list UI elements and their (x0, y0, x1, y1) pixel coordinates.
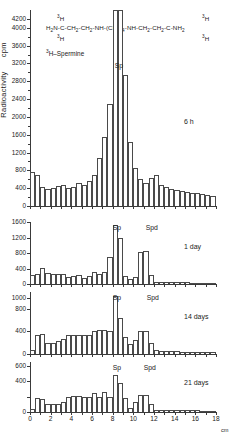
y-axis-units-text: cpm (0, 42, 8, 57)
y-tick-label: 1600 (12, 219, 26, 225)
x-tick (30, 284, 31, 287)
x-tick (185, 354, 186, 357)
x-tick (123, 412, 124, 415)
x-tick (40, 206, 41, 209)
x-tick (51, 354, 52, 357)
time-point-label: 21 days (184, 379, 209, 386)
y-tick-label: 800 (15, 306, 26, 312)
x-tick (113, 354, 114, 357)
x-tick (195, 206, 196, 209)
x-tick (144, 206, 145, 209)
time-point-label: 6 h (184, 118, 194, 125)
x-tick (30, 354, 31, 357)
x-axis-units-label: cm (221, 427, 228, 433)
bar-series (30, 292, 216, 354)
x-tick (40, 284, 41, 287)
x-tick (102, 354, 103, 357)
x-tick (164, 412, 165, 415)
y-tick-label: 800 (15, 167, 26, 173)
x-tick-label: 10 (130, 416, 137, 423)
x-tick (82, 354, 83, 357)
x-tick (216, 206, 217, 209)
x-tick (144, 412, 145, 415)
y-tick-label: 400 (15, 328, 26, 334)
x-tick (61, 354, 62, 357)
bar (210, 196, 215, 206)
x-tick (206, 284, 207, 287)
x-tick (102, 206, 103, 209)
peak-label-sp: Sp (113, 294, 121, 301)
x-tick (61, 206, 62, 209)
y-tick-label: 400 (15, 378, 26, 384)
peak-label-spd: Spd (144, 364, 156, 371)
y-tick-label: 2400 (12, 96, 26, 102)
figure-root: Radioactivitycpm H2N-C-CH2-CH2-NH-(CH2)4… (0, 0, 236, 436)
y-tick-label: 0 (22, 203, 26, 209)
x-tick (195, 284, 196, 287)
x-tick (133, 206, 134, 209)
x-tick-label: 16 (192, 416, 199, 423)
peak-label-sp: Sp (113, 364, 121, 371)
bar (210, 352, 215, 354)
y-tick-label: 400 (15, 185, 26, 191)
y-tick-label: 1600 (12, 132, 26, 138)
x-tick (92, 354, 93, 357)
x-tick (164, 206, 165, 209)
x-tick (113, 206, 114, 209)
y-tick-label: 800 (15, 250, 26, 256)
x-tick (123, 284, 124, 287)
x-tick (92, 284, 93, 287)
y-tick-label: 600 (15, 363, 26, 369)
y-tick-label: 400 (15, 266, 26, 272)
x-tick-label: 18 (212, 416, 219, 423)
x-tick (154, 206, 155, 209)
x-tick (206, 206, 207, 209)
x-tick (82, 412, 83, 415)
peak-label-sp: Sp (113, 224, 121, 231)
y-tick-label: 4200 (12, 16, 26, 22)
panel-1day: 040080012001600SpSpd1 day (30, 222, 216, 284)
bar-series (30, 222, 216, 284)
x-tick (175, 284, 176, 287)
bar (210, 411, 215, 412)
x-tick (71, 206, 72, 209)
x-tick (30, 206, 31, 209)
x-tick (51, 206, 52, 209)
x-tick (195, 354, 196, 357)
x-tick (216, 354, 217, 357)
y-tick-label: 3600 (12, 43, 26, 49)
x-tick (216, 284, 217, 287)
y-axis-title: Radioactivitycpm (0, 10, 8, 150)
x-tick (61, 284, 62, 287)
x-tick (185, 206, 186, 209)
x-tick (154, 284, 155, 287)
x-tick (123, 354, 124, 357)
bar (210, 283, 215, 284)
y-tick-label: 2000 (12, 114, 26, 120)
y-tick-label: 0 (22, 409, 26, 415)
x-tick (123, 206, 124, 209)
panel-6h: 0400800120016002000240028003200360040004… (30, 10, 216, 206)
x-tick (92, 206, 93, 209)
x-tick (154, 354, 155, 357)
peak-label-sp: Sp (115, 62, 123, 69)
x-tick (133, 354, 134, 357)
x-tick-label: 0 (28, 416, 32, 423)
time-point-label: 14 days (184, 313, 209, 320)
peak-label-spd: Spd (147, 294, 159, 301)
x-tick (71, 354, 72, 357)
y-axis-title-text: Radioactivity (0, 71, 8, 117)
x-tick (175, 354, 176, 357)
x-tick (185, 284, 186, 287)
x-tick (40, 412, 41, 415)
x-tick (113, 284, 114, 287)
bar-series (30, 362, 216, 412)
x-tick (144, 354, 145, 357)
x-tick (82, 284, 83, 287)
x-tick (206, 412, 207, 415)
time-point-label: 1 day (184, 243, 201, 250)
x-tick-label: 8 (111, 416, 115, 423)
x-tick (71, 284, 72, 287)
panel-14days: 04008001000SpSpd14 days (30, 292, 216, 354)
bar-series (30, 10, 216, 206)
